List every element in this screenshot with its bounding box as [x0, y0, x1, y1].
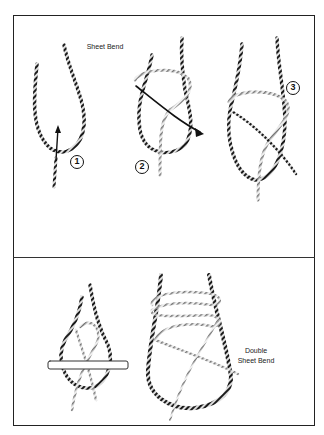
step-3-marker: 3	[286, 81, 300, 95]
step3-finished	[229, 38, 296, 200]
step2-tuck	[135, 38, 204, 175]
double-sheet-bend-label: Double Sheet Bend	[233, 346, 279, 366]
toggle-bend-illustration	[48, 285, 128, 410]
label-line-1: Double	[233, 346, 279, 356]
step-2-marker: 2	[135, 160, 149, 174]
knot-illustrations	[0, 0, 324, 435]
double-sheet-bend-illustration	[148, 275, 238, 420]
sheet-bend-title: Sheet Bend	[80, 42, 130, 52]
label-line-2: Sheet Bend	[233, 356, 279, 366]
step-1-marker: 1	[70, 155, 84, 169]
